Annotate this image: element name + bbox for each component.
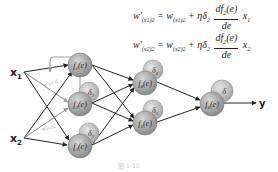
svg-text:f4(e): f4(e) — [138, 79, 152, 89]
input-x2: x2 — [10, 132, 22, 147]
eq2-x: x2 — [243, 39, 250, 50]
svg-text:f5(e): f5(e) — [138, 119, 152, 129]
node-f3: δ3 f3(e) — [68, 123, 99, 158]
eq1-lhs: w'(x1)2 — [133, 10, 154, 21]
equation-1: w'(x1)2 = w(x1)2 + ηδ2 df2(e)de x1 — [133, 3, 250, 31]
eq2-fraction: df2(e)de — [214, 32, 238, 60]
eq1-eta-delta: ηδ2 — [197, 10, 210, 21]
output-y: y — [259, 98, 266, 109]
node-f4: δ4 f4(e) — [133, 60, 163, 95]
input-x1: x1 — [10, 66, 22, 81]
node-f5: δ5 f5(e) — [133, 100, 163, 135]
node-f6-output: δ f6(e) — [200, 80, 233, 116]
eq2-lhs: w'(x2)2 — [133, 39, 154, 50]
node-f2: δ2 f2(e) — [68, 82, 99, 116]
svg-text:δ: δ — [222, 87, 226, 96]
eq1-w: w(x1)2 — [166, 10, 185, 21]
equation-2: w'(x2)2 = w(x2)2 + ηδ2 df2(e)de x2 — [133, 32, 250, 60]
input-connections — [24, 65, 72, 145]
figure-caption: 图 1-10 — [118, 161, 140, 170]
svg-text:f1(e): f1(e) — [73, 61, 87, 71]
eq1-x: x1 — [243, 10, 250, 21]
weight-label-x1: w'(x1)2 — [42, 77, 59, 88]
svg-text:f2(e): f2(e) — [73, 100, 87, 110]
eq1-fraction: df2(e)de — [214, 3, 238, 31]
svg-text:f6(e): f6(e) — [205, 100, 219, 110]
eq2-w: w(x2)2 — [166, 39, 185, 50]
svg-text:f3(e): f3(e) — [73, 142, 87, 152]
eq2-eta-delta: ηδ2 — [197, 39, 210, 50]
weight-label-x2: w'(x2)2 — [41, 122, 58, 132]
node-f1: f1(e) — [68, 53, 92, 77]
